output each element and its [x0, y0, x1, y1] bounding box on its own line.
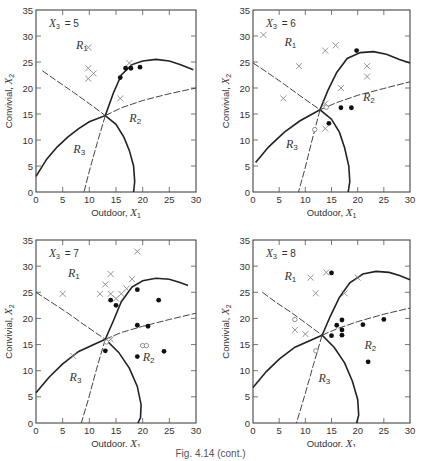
- x-tick-label: 20: [352, 425, 363, 436]
- data-point-filled: [340, 318, 345, 323]
- chart-panel-x3-8: 05101520253005101520253035Outdoor, X1Con…: [210, 225, 421, 447]
- data-point-cross: [124, 286, 130, 292]
- y-tick-label: 10: [22, 365, 33, 376]
- data-point-open: [293, 317, 297, 321]
- region-label-r3: R3: [285, 137, 298, 152]
- y-axis-label: Convivial, X2: [219, 304, 232, 359]
- boundary-dashed-r1: [262, 292, 322, 335]
- y-tick-label: 25: [22, 287, 33, 298]
- y-tick-label: 35: [239, 5, 250, 16]
- data-point-filled: [118, 75, 123, 80]
- data-point-cross: [280, 95, 286, 101]
- x-tick-label: 30: [405, 425, 416, 436]
- data-point-cross: [118, 291, 124, 297]
- data-point-filled: [108, 298, 113, 303]
- y-axis-label: Convivial, X2: [2, 304, 15, 359]
- y-tick-label: 0: [28, 418, 33, 429]
- data-point-open: [104, 340, 108, 344]
- data-point-filled: [340, 328, 345, 333]
- y-tick-label: 5: [28, 161, 33, 172]
- boundary-dashed-r2: [105, 313, 196, 339]
- x-tick-label: 30: [191, 425, 202, 436]
- y-tick-label: 20: [239, 83, 250, 94]
- data-point-cross: [117, 95, 123, 101]
- data-point-cross: [313, 290, 319, 296]
- data-point-cross: [292, 327, 298, 333]
- x-tick-label: 15: [111, 425, 122, 436]
- y-tick-label: 30: [22, 31, 33, 42]
- data-point-cross: [322, 126, 328, 132]
- data-point-open: [313, 127, 317, 131]
- data-point-cross: [333, 42, 339, 48]
- data-point-filled: [329, 333, 334, 338]
- data-point-cross: [364, 74, 370, 80]
- data-point-filled: [334, 323, 339, 328]
- data-point-cross: [260, 32, 266, 38]
- y-tick-label: 25: [239, 57, 250, 68]
- boundary-dashed-r3: [81, 339, 105, 423]
- axes: 05101520253005101520253035: [239, 5, 415, 206]
- data-point-open: [144, 343, 148, 347]
- region-label-r1: R1: [67, 266, 80, 281]
- y-tick-label: 5: [28, 391, 33, 402]
- chart-panel-x3-6: 05101520253005101520253035Outdoor, X1Con…: [210, 0, 421, 222]
- data-point-cross: [364, 63, 370, 69]
- y-tick-label: 35: [22, 5, 33, 16]
- boundary-solid-upper: [105, 59, 193, 115]
- x-tick-label: 5: [277, 194, 282, 205]
- y-tick-label: 25: [239, 287, 250, 298]
- y-tick-label: 25: [22, 57, 33, 68]
- x-tick-label: 10: [84, 425, 95, 436]
- y-tick-label: 0: [28, 187, 33, 198]
- x-tick-label: 25: [164, 194, 175, 205]
- boundary-dashed-r2: [322, 308, 410, 335]
- y-tick-label: 0: [245, 418, 250, 429]
- x-tick-label: 0: [250, 194, 255, 205]
- data-point-cross: [60, 291, 66, 297]
- y-tick-label: 5: [245, 161, 250, 172]
- x-tick-label: 30: [405, 194, 416, 205]
- data-point-filled: [162, 349, 167, 354]
- region-label-r1: R1: [283, 35, 296, 50]
- data-point-filled: [129, 66, 134, 71]
- x-tick-label: 25: [379, 194, 390, 205]
- data-point-cross: [129, 276, 135, 282]
- y-tick-label: 15: [22, 339, 33, 350]
- y-tick-label: 15: [239, 109, 250, 120]
- y-tick-label: 30: [22, 261, 33, 272]
- y-tick-label: 10: [22, 135, 33, 146]
- data-point-filled: [354, 48, 359, 53]
- y-tick-label: 10: [239, 135, 250, 146]
- x-tick-label: 25: [164, 425, 175, 436]
- axes: 05101520253005101520253035: [22, 5, 201, 206]
- data-point-filled: [146, 324, 151, 329]
- boundary-dashed-r1: [42, 71, 105, 116]
- boundary-solid-lower: [36, 116, 135, 192]
- panel-title: X3 = 5: [48, 17, 79, 30]
- data-point-cross: [85, 76, 91, 82]
- data-point-filled: [339, 105, 344, 110]
- boundary-dashed-r3: [84, 116, 105, 192]
- x-tick-label: 5: [60, 425, 65, 436]
- data-point-filled: [135, 323, 140, 328]
- data-point-cross: [134, 249, 140, 255]
- y-tick-label: 35: [239, 235, 250, 246]
- data-point-cross: [97, 291, 103, 297]
- data-point-cross: [338, 85, 344, 91]
- panel-title: X3 = 7: [48, 247, 79, 260]
- data-point-cross: [322, 48, 328, 54]
- axes: 05101520253005101520253035: [239, 235, 415, 437]
- region-label-r2: R2: [142, 350, 155, 365]
- y-tick-label: 30: [239, 261, 250, 272]
- boundary-dashed-r1: [36, 292, 105, 339]
- x-tick-label: 15: [326, 425, 337, 436]
- region-label-r2: R2: [362, 90, 375, 105]
- data-point-cross: [108, 271, 114, 277]
- y-tick-label: 0: [245, 187, 250, 198]
- figure-caption: Fig. 4.14 (cont.): [0, 448, 421, 459]
- region-label-r2: R2: [128, 111, 141, 126]
- data-point-cross: [296, 63, 302, 69]
- x-axis-label: Outdoor, X1: [307, 206, 357, 219]
- plot-frame: [253, 10, 410, 192]
- plot-frame: [36, 240, 196, 423]
